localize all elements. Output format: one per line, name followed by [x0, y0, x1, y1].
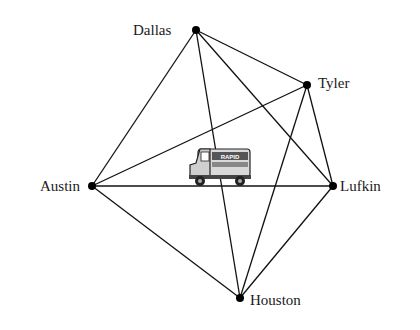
node-tyler — [303, 81, 311, 89]
edge-austin-houston — [92, 186, 240, 298]
node-austin — [88, 182, 96, 190]
node-dallas — [192, 26, 200, 34]
node-houston — [236, 294, 244, 302]
delivery-truck-icon: RAPID — [189, 149, 251, 186]
label-lufkin: Lufkin — [340, 178, 381, 194]
label-austin: Austin — [40, 178, 81, 194]
label-houston: Houston — [250, 292, 301, 308]
node-lufkin — [329, 182, 337, 190]
truck-logo-text: RAPID — [221, 154, 240, 160]
edge-dallas-austin — [92, 30, 196, 186]
label-dallas: Dallas — [133, 22, 171, 38]
label-tyler: Tyler — [318, 75, 349, 91]
edge-dallas-tyler — [196, 30, 307, 85]
edge-lufkin-houston — [240, 186, 333, 298]
route-graph: RAPID DallasTylerLufkinHoustonAustin — [0, 0, 420, 330]
edge-tyler-houston — [240, 85, 307, 298]
